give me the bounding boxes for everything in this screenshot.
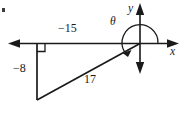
y-axis-down-arrowhead xyxy=(136,62,144,74)
y-axis-up-arrowhead xyxy=(136,3,144,15)
y-axis-label: y xyxy=(128,3,133,15)
hypotenuse-label: 17 xyxy=(84,73,96,85)
triangle-figure: −15 −8 17 x y θ xyxy=(0,0,187,113)
opposite-leg-label: −8 xyxy=(13,62,26,74)
x-axis-left-arrowhead xyxy=(8,39,20,48)
x-axis-label: x xyxy=(170,46,175,58)
triangle-diagram-canvas xyxy=(0,0,187,113)
angle-theta-label: θ xyxy=(110,16,116,28)
right-angle-marker xyxy=(37,44,45,52)
adjacent-leg-label: −15 xyxy=(58,22,77,34)
